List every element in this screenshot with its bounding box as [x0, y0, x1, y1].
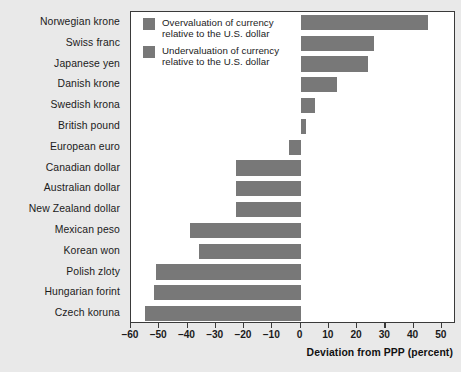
y-axis-label: Swiss franc — [66, 33, 120, 54]
y-axis-label: Mexican peso — [55, 220, 120, 241]
x-axis-tick-label: 40 — [407, 329, 418, 340]
x-axis-tick — [441, 323, 442, 328]
y-axis-label: Korean won — [64, 241, 120, 262]
x-axis-tick-label: –60 — [122, 329, 139, 340]
bar — [236, 202, 301, 217]
x-axis-tick-label: –40 — [178, 329, 195, 340]
y-axis-label: Danish krone — [58, 74, 120, 95]
legend-item: Overvaluation of currencyrelative to the… — [143, 17, 328, 40]
y-axis-label: Polish zloty — [66, 262, 120, 283]
bar — [154, 285, 301, 300]
legend-label: Overvaluation of currencyrelative to the… — [162, 17, 274, 40]
legend-label-line1: Overvaluation of currency — [162, 17, 274, 28]
y-axis-label: Czech koruna — [55, 303, 120, 324]
x-axis: Deviation from PPP (percent) –60–50–40–3… — [130, 323, 455, 372]
x-axis-tick-label: 30 — [379, 329, 390, 340]
x-axis-tick-label: 50 — [435, 329, 446, 340]
bar — [236, 160, 301, 175]
bar — [301, 77, 338, 92]
y-axis-label: Australian dollar — [44, 178, 120, 199]
legend-label-line2: relative to the U.S. dollar — [162, 28, 274, 39]
bar — [145, 306, 300, 321]
x-axis-tick — [215, 323, 216, 328]
legend-label: Undervaluation of currencyrelative to th… — [162, 45, 279, 68]
legend-label-line2: relative to the U.S. dollar — [162, 56, 279, 67]
y-axis-label: Norwegian krone — [40, 12, 120, 33]
legend-label-line1: Undervaluation of currency — [162, 45, 279, 56]
x-axis-tick — [271, 323, 272, 328]
bar — [301, 98, 315, 113]
y-axis-label: European euro — [50, 137, 120, 158]
x-axis-tick — [187, 323, 188, 328]
x-axis-tick-label: –30 — [206, 329, 223, 340]
x-axis-title: Deviation from PPP (percent) — [307, 347, 453, 358]
x-axis-tick-label: 20 — [350, 329, 361, 340]
y-axis-label: Swedish krona — [51, 95, 120, 116]
bar — [301, 119, 307, 134]
bar — [199, 244, 301, 259]
x-axis-tick — [243, 323, 244, 328]
x-axis-tick — [328, 323, 329, 328]
y-axis-category-labels: Norwegian kroneSwiss francJapanese yenDa… — [0, 12, 126, 323]
x-axis-tick — [413, 323, 414, 328]
x-axis-tick — [356, 323, 357, 328]
legend-item: Undervaluation of currencyrelative to th… — [143, 45, 328, 68]
x-axis-tick — [158, 323, 159, 328]
x-axis-tick-label: 0 — [297, 329, 303, 340]
bar — [156, 264, 300, 279]
bar — [190, 223, 300, 238]
x-axis-tick — [300, 323, 301, 328]
chart-figure: Norwegian kroneSwiss francJapanese yenDa… — [0, 0, 461, 372]
y-axis-label: New Zealand dollar — [29, 199, 120, 220]
y-axis-label: Japanese yen — [54, 54, 120, 75]
y-axis-label: Hungarian forint — [44, 282, 120, 303]
bar — [289, 140, 300, 155]
x-axis-tick — [384, 323, 385, 328]
legend-swatch-icon — [143, 46, 155, 58]
legend-swatch-icon — [143, 18, 155, 30]
y-axis-label: British pound — [58, 116, 120, 137]
x-axis-tick-label: –10 — [263, 329, 280, 340]
y-axis-label: Canadian dollar — [46, 158, 120, 179]
bar — [236, 181, 301, 196]
x-axis-tick-label: –50 — [150, 329, 167, 340]
x-axis-tick — [130, 323, 131, 328]
chart-legend: Overvaluation of currencyrelative to the… — [143, 17, 328, 73]
x-axis-tick-label: 10 — [322, 329, 333, 340]
plot-area: Overvaluation of currencyrelative to the… — [130, 11, 455, 323]
x-axis-tick-label: –20 — [235, 329, 252, 340]
